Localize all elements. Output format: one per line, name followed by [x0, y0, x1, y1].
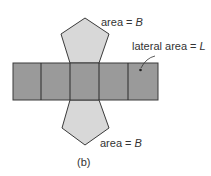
figure-caption: (b) — [77, 156, 90, 168]
arrow-tip-dot — [139, 69, 142, 72]
label-text: lateral area = — [132, 40, 200, 52]
label-text: area = — [100, 137, 135, 149]
top-base-label: area = B — [101, 16, 143, 28]
label-variable: B — [135, 137, 142, 149]
bottom-base-label: area = B — [100, 137, 142, 149]
label-variable: B — [136, 16, 143, 28]
label-variable: L — [200, 40, 206, 52]
label-text: area = — [101, 16, 136, 28]
lateral-area-label: lateral area = L — [132, 40, 206, 52]
lateral-faces-rect — [13, 63, 158, 100]
